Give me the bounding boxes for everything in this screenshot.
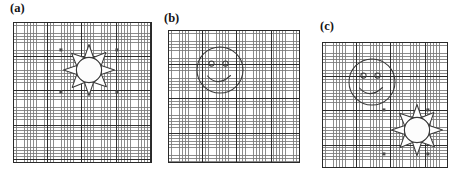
panel-a-grid bbox=[13, 22, 152, 163]
panel-c-label: (c) bbox=[320, 20, 334, 33]
panel-a-border bbox=[13, 22, 152, 163]
panel-a-label: (a) bbox=[10, 2, 25, 15]
panel-b-grid bbox=[168, 30, 300, 163]
panel-c-border bbox=[322, 42, 448, 168]
figure-canvas: (a) bbox=[0, 0, 458, 175]
panel-c-grid bbox=[322, 42, 448, 168]
panel-b-label: (b) bbox=[164, 12, 179, 25]
panel-b-border bbox=[168, 30, 300, 163]
